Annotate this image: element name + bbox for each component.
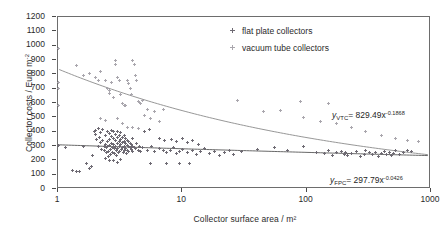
legend-item-flat-plate: flat plate collectors xyxy=(228,22,378,39)
data-point-fpc xyxy=(143,130,146,133)
data-point-vtc xyxy=(279,109,282,112)
x-tick-mark xyxy=(57,188,58,192)
data-point-fpc xyxy=(78,170,81,173)
data-point-fpc xyxy=(181,137,184,140)
data-point-vtc xyxy=(143,114,146,117)
data-point-vtc xyxy=(406,139,409,142)
data-point-fpc xyxy=(131,137,134,140)
data-point-fpc xyxy=(363,153,366,156)
x-tick-label: 1 xyxy=(37,195,77,204)
data-point-fpc xyxy=(97,127,100,130)
data-point-fpc xyxy=(150,145,153,148)
equation-fpc-sub: FPC xyxy=(334,180,346,186)
data-point-fpc xyxy=(149,162,152,165)
data-point-vtc xyxy=(146,108,149,111)
data-point-fpc xyxy=(398,153,401,156)
data-point-fpc xyxy=(94,133,97,136)
data-point-fpc xyxy=(228,149,231,152)
data-point-fpc xyxy=(153,150,156,153)
data-point-fpc xyxy=(57,144,60,147)
data-point-vtc xyxy=(126,79,129,82)
data-point-vtc xyxy=(335,122,338,125)
data-point-fpc xyxy=(181,148,184,151)
data-point-vtc xyxy=(130,93,133,96)
data-point-vtc xyxy=(119,93,122,96)
data-point-fpc xyxy=(199,150,202,153)
legend-label-vacuum-tube: vacuum tube collectors xyxy=(242,43,329,53)
data-point-vtc xyxy=(139,102,142,105)
data-point-fpc xyxy=(203,147,206,150)
data-point-vtc xyxy=(112,96,115,99)
x-tick-label: 1000 xyxy=(410,195,444,204)
data-point-vtc xyxy=(131,59,134,62)
data-point-fpc xyxy=(232,153,235,156)
data-point-vtc xyxy=(110,81,113,84)
chart-legend: flat plate collectors vacuum tube collec… xyxy=(228,22,378,56)
data-point-vtc xyxy=(162,108,165,111)
x-tick-mark xyxy=(181,188,182,192)
chart-figure: Collector costs / Euro m-2 0100200300400… xyxy=(0,0,444,237)
x-tick-mark xyxy=(430,188,431,192)
data-point-fpc xyxy=(71,169,74,172)
data-point-fpc xyxy=(119,158,122,161)
data-point-fpc xyxy=(163,139,166,142)
data-point-fpc xyxy=(371,153,374,156)
data-point-vtc xyxy=(319,120,322,123)
data-point-vtc xyxy=(88,72,91,75)
data-point-fpc xyxy=(223,151,226,154)
data-point-fpc xyxy=(104,134,107,137)
data-point-fpc xyxy=(75,170,78,173)
data-point-fpc xyxy=(112,159,115,162)
data-point-vtc xyxy=(114,63,117,66)
data-point-fpc xyxy=(108,159,111,162)
data-point-vtc xyxy=(299,100,302,103)
data-point-vtc xyxy=(158,120,161,123)
equation-fpc: yFPC= 297.79x-0.0426 xyxy=(330,175,403,185)
data-point-vtc xyxy=(350,126,353,129)
data-point-vtc xyxy=(121,122,124,125)
equation-vtc-sub: VTC xyxy=(336,115,348,121)
data-point-fpc xyxy=(97,145,100,148)
data-point-fpc xyxy=(273,146,276,149)
data-point-fpc xyxy=(101,128,104,131)
data-point-fpc xyxy=(191,149,194,152)
data-point-fpc xyxy=(344,151,347,154)
data-point-vtc xyxy=(57,104,60,107)
data-point-vtc xyxy=(236,99,239,102)
data-point-fpc xyxy=(191,139,194,142)
data-point-fpc xyxy=(99,131,102,134)
data-point-fpc xyxy=(323,152,326,155)
data-point-fpc xyxy=(162,149,165,152)
data-point-vtc xyxy=(129,87,132,90)
data-point-vtc xyxy=(104,79,107,82)
data-point-vtc xyxy=(124,104,127,107)
data-point-fpc xyxy=(392,152,395,155)
data-point-vtc xyxy=(137,127,140,130)
data-point-vtc xyxy=(118,79,121,82)
equation-vtc: yVTC= 829.49x-0.1868 xyxy=(332,110,405,120)
data-point-fpc xyxy=(141,146,144,149)
data-point-fpc xyxy=(286,149,289,152)
data-point-fpc xyxy=(402,151,405,154)
x-tick-label: 10 xyxy=(161,195,201,204)
data-point-fpc xyxy=(343,153,346,156)
data-point-fpc xyxy=(256,148,259,151)
data-point-fpc xyxy=(327,149,330,152)
data-point-fpc xyxy=(85,162,88,165)
data-point-fpc xyxy=(139,150,142,153)
x-tick-label: 100 xyxy=(286,195,326,204)
data-point-fpc xyxy=(213,150,216,153)
data-point-fpc xyxy=(146,149,149,152)
data-point-fpc xyxy=(98,136,101,139)
data-point-fpc xyxy=(302,145,305,148)
data-point-vtc xyxy=(104,119,107,122)
data-point-fpc xyxy=(315,151,318,154)
data-point-vtc xyxy=(57,81,60,84)
data-point-vtc xyxy=(135,79,138,82)
equation-fpc-exponent: -0.0426 xyxy=(384,175,403,181)
data-point-fpc xyxy=(377,155,380,158)
equation-fpc-body: = 297.79x xyxy=(346,175,384,185)
data-point-fpc xyxy=(374,151,377,154)
data-point-fpc xyxy=(106,140,109,143)
data-point-vtc xyxy=(99,117,102,120)
